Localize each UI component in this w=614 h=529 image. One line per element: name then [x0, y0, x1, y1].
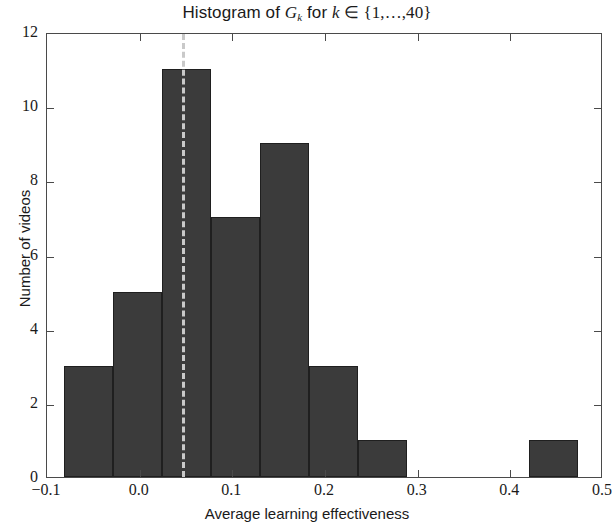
x-axis-tick-top — [325, 34, 326, 41]
x-axis-tick-label: 0.0 — [109, 481, 169, 499]
mean-line — [182, 34, 185, 477]
x-axis-tick — [140, 470, 141, 477]
y-axis-tick-label: 10 — [4, 97, 38, 115]
y-axis-tick-right — [594, 257, 601, 258]
histogram-bar — [309, 366, 358, 477]
y-axis-tick — [47, 405, 54, 406]
y-axis-tick-label: 12 — [4, 23, 38, 41]
y-axis-tick-label: 4 — [4, 320, 38, 338]
x-axis-tick — [232, 470, 233, 477]
plot-area — [46, 33, 602, 478]
chart-title-variable: G — [285, 3, 297, 22]
x-axis-tick-label: 0.1 — [201, 481, 261, 499]
x-axis-tick-label: 0.2 — [294, 481, 354, 499]
chart-title-prefix: Histogram of — [182, 3, 284, 22]
histogram-bar — [113, 292, 162, 477]
x-axis-title: Average learning effectiveness — [0, 505, 614, 522]
y-axis-tick-label: 8 — [4, 171, 38, 189]
y-axis-tick-right — [594, 108, 601, 109]
y-axis-tick — [47, 331, 54, 332]
x-axis-tick-label: 0.3 — [387, 481, 447, 499]
y-axis-tick-label: 6 — [4, 246, 38, 264]
x-axis-tick — [510, 470, 511, 477]
chart-title-index: k — [332, 3, 340, 22]
y-axis-tick-right — [594, 182, 601, 183]
histogram-bar — [358, 440, 407, 477]
histogram-figure: Histogram of Gk for k ∈ {1,…,40} Average… — [0, 0, 614, 529]
y-axis-tick-right — [594, 405, 601, 406]
x-axis-tick-label: 0.5 — [572, 481, 614, 499]
histogram-bar — [162, 69, 211, 477]
y-axis-tick-label: 2 — [4, 394, 38, 412]
x-axis-tick-top — [140, 34, 141, 41]
x-axis-tick-top — [418, 34, 419, 41]
chart-title-member-symbol: ∈ — [340, 3, 364, 22]
x-axis-tick-label: 0.4 — [479, 481, 539, 499]
x-axis-tick — [418, 470, 419, 477]
chart-title-set: {1,…,40} — [363, 3, 431, 22]
histogram-bar — [529, 440, 578, 477]
y-axis-tick-right — [594, 331, 601, 332]
x-axis-tick — [325, 470, 326, 477]
x-axis-tick-top — [232, 34, 233, 41]
x-axis-tick-top — [510, 34, 511, 41]
y-axis-tick — [47, 257, 54, 258]
chart-title-mid: for — [302, 3, 332, 22]
histogram-bar — [64, 366, 113, 477]
histogram-bar — [211, 217, 260, 477]
histogram-bar — [260, 143, 309, 477]
y-axis-tick — [47, 182, 54, 183]
y-axis-tick-label: 0 — [4, 468, 38, 486]
chart-title: Histogram of Gk for k ∈ {1,…,40} — [0, 2, 614, 23]
y-axis-tick — [47, 108, 54, 109]
